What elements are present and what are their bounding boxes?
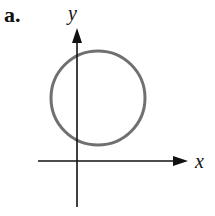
diagram bbox=[0, 0, 215, 216]
circle bbox=[51, 51, 145, 145]
x-axis-arrow-icon bbox=[173, 156, 188, 166]
y-axis-arrow-icon bbox=[72, 28, 82, 43]
